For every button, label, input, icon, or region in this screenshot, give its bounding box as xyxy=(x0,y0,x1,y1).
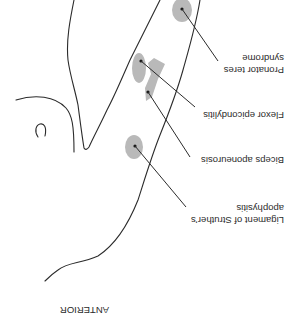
label-flexor: Flexor epicondylitis xyxy=(203,110,284,121)
arm-outline-right xyxy=(45,0,200,281)
label-pronator-line1: Pronator teres xyxy=(224,65,284,76)
arm-outline-inner xyxy=(67,0,160,149)
flexor-lesion xyxy=(132,53,146,83)
biceps-leader xyxy=(148,92,190,157)
label-pronator-line2: syndrome xyxy=(242,53,284,64)
label-biceps: Biceps aponeurosis xyxy=(201,155,284,166)
olecranon-mark xyxy=(36,124,46,137)
epicondyle-curve xyxy=(16,97,74,152)
ligament-leader xyxy=(135,146,186,207)
label-ligament-line2: apophysitis xyxy=(236,203,284,214)
label-ligament-line1: Ligament of Struther’s xyxy=(191,215,284,226)
elbow-anatomy-diagram: Pronator teres syndrome Flexor epicondyl… xyxy=(0,0,301,317)
orientation-label: ANTERIOR xyxy=(60,305,109,316)
